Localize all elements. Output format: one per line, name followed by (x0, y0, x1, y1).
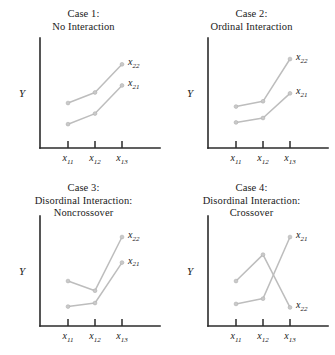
data-point-x21-0 (234, 302, 238, 306)
data-point-x22-1 (93, 91, 97, 95)
x-tick-label-0: x11 (62, 330, 74, 344)
plot-area-case4: Yx11x12x13x21x22 (168, 178, 335, 355)
data-point-x21-2 (288, 235, 292, 239)
plot-area-case3: Yx11x12x13x21x22 (0, 178, 167, 355)
series-label-x22: x22 (295, 51, 308, 65)
series-label-x22: x22 (127, 56, 140, 70)
y-axis-label: Y (19, 265, 27, 277)
x-tick-label-1: x12 (256, 152, 269, 166)
data-point-x21-2 (120, 261, 124, 265)
plot-area-case1: Yx11x12x13x21x22 (0, 0, 167, 177)
data-point-x22-0 (66, 101, 70, 105)
data-point-x22-2 (288, 57, 292, 61)
series-line-x22 (68, 237, 122, 291)
interaction-effects-figure: Case 1:No InteractionYx11x12x13x21x22Cas… (0, 0, 335, 355)
series-line-x22 (68, 64, 122, 103)
series-label-x21: x21 (295, 229, 307, 243)
x-tick-label-1: x12 (88, 330, 101, 344)
data-point-x21-1 (93, 301, 97, 305)
x-tick-label-2: x13 (283, 152, 296, 166)
x-tick-label-0: x11 (62, 152, 74, 166)
panel-case1: Case 1:No InteractionYx11x12x13x21x22 (0, 0, 167, 177)
y-axis-label: Y (187, 87, 195, 99)
x-tick-label-2: x13 (115, 330, 128, 344)
data-point-x22-1 (93, 289, 97, 293)
data-point-x22-0 (66, 279, 70, 283)
data-point-x21-1 (261, 297, 265, 301)
x-tick-label-0: x11 (230, 330, 242, 344)
data-point-x22-2 (288, 306, 292, 310)
y-axis-label: Y (19, 87, 27, 99)
series-label-x21: x21 (127, 255, 139, 269)
panel-case2: Case 2:Ordinal InteractionYx11x12x13x21x… (168, 0, 335, 177)
x-tick-label-2: x13 (283, 330, 296, 344)
data-point-x22-0 (234, 105, 238, 109)
data-point-x22-2 (120, 62, 124, 66)
x-tick-label-0: x11 (230, 152, 242, 166)
y-axis-label: Y (187, 265, 195, 277)
data-point-x21-2 (120, 84, 124, 88)
x-tick-label-1: x12 (256, 330, 269, 344)
series-label-x21: x21 (127, 77, 139, 91)
series-line-x21 (236, 237, 290, 304)
data-point-x21-0 (66, 122, 70, 126)
data-point-x21-1 (93, 112, 97, 116)
data-point-x22-0 (234, 279, 238, 283)
panel-case4: Case 4:Disordinal Interaction:CrossoverY… (168, 178, 335, 355)
data-point-x22-2 (120, 235, 124, 239)
x-tick-label-2: x13 (115, 152, 128, 166)
series-label-x22: x22 (127, 229, 140, 243)
x-tick-label-1: x12 (88, 152, 101, 166)
data-point-x21-0 (66, 305, 70, 309)
series-label-x21: x21 (295, 85, 307, 99)
data-point-x22-1 (261, 253, 265, 257)
plot-area-case2: Yx11x12x13x21x22 (168, 0, 335, 177)
series-label-x22: x22 (295, 299, 308, 313)
data-point-x21-2 (288, 91, 292, 95)
data-point-x21-0 (234, 121, 238, 125)
data-point-x22-1 (261, 99, 265, 103)
panel-case3: Case 3:Disordinal Interaction:Noncrossov… (0, 178, 167, 355)
data-point-x21-1 (261, 116, 265, 120)
